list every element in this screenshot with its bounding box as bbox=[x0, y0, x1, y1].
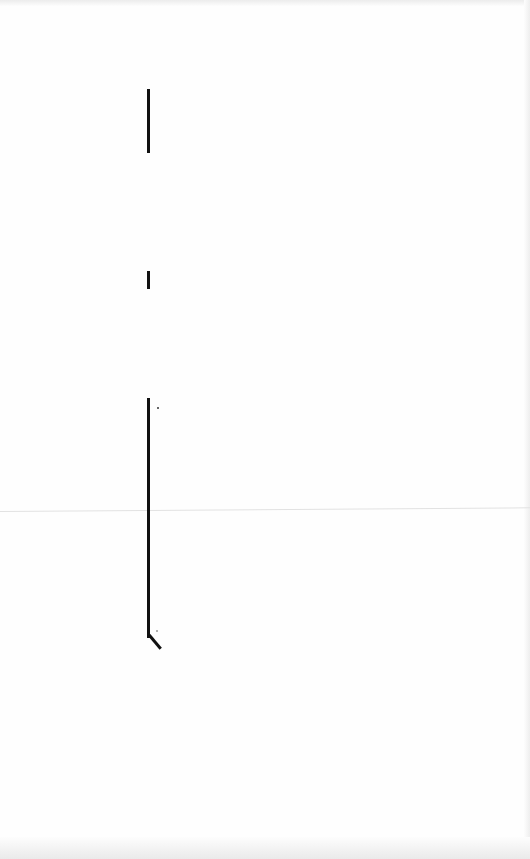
scan-top-edge bbox=[0, 0, 530, 6]
scan-right-edge bbox=[524, 0, 530, 859]
scan-bottom-edge bbox=[0, 837, 530, 859]
change-bar bbox=[147, 398, 150, 638]
speck bbox=[157, 407, 159, 409]
page-fold-line bbox=[0, 507, 530, 512]
change-bar bbox=[147, 271, 150, 289]
change-bar bbox=[147, 89, 150, 153]
speck bbox=[156, 630, 158, 632]
document-page bbox=[0, 0, 530, 859]
change-bar-tail bbox=[148, 634, 162, 650]
